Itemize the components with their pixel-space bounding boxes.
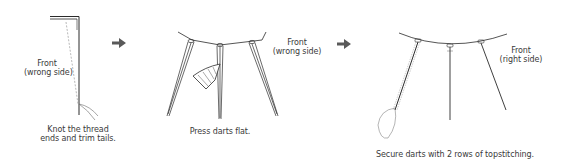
step1-label-front: Front xyxy=(24,59,70,68)
step2-label-side: (wrong side) xyxy=(269,47,325,56)
arrow-right-icon xyxy=(111,37,127,49)
step2-side-label: Front (wrong side) xyxy=(269,38,325,56)
step3-caption-line1: Secure darts with 2 rows of topstitching… xyxy=(375,150,535,159)
step2-caption-line1: Press darts flat. xyxy=(185,127,255,136)
step1-label-side: (wrong side) xyxy=(24,68,70,77)
step2-caption: Press darts flat. xyxy=(185,127,255,136)
step3-label-front: Front xyxy=(497,46,545,55)
step1-caption-line2: ends and trim tails. xyxy=(33,134,123,143)
instruction-diagram: Front (wrong side) Knot the thread ends … xyxy=(0,0,564,162)
step1-caption: Knot the thread ends and trim tails. xyxy=(33,125,123,143)
step2-label-front: Front xyxy=(269,38,325,47)
step1-side-label: Front (wrong side) xyxy=(24,59,70,77)
step1-caption-line1: Knot the thread xyxy=(33,125,123,134)
arrow-right-icon xyxy=(336,38,352,50)
step3-label-side: (right side) xyxy=(497,55,545,64)
step2-press-illustration xyxy=(167,32,278,119)
step3-caption: Secure darts with 2 rows of topstitching… xyxy=(375,150,535,159)
step3-topstitch-illustration xyxy=(378,33,507,138)
step3-side-label: Front (right side) xyxy=(497,46,545,64)
